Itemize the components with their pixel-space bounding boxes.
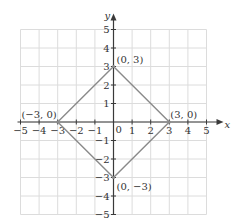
y-tick-label: 1 <box>103 98 109 109</box>
y-tick-label: 3 <box>103 61 109 72</box>
x-tick-label: −5 <box>13 125 28 136</box>
y-tick-label: 5 <box>103 24 109 35</box>
x-tick-label: 3 <box>166 125 172 136</box>
y-tick-label: 2 <box>103 80 109 91</box>
vertex-point <box>112 176 115 179</box>
x-tick-label: 5 <box>203 125 209 136</box>
point-label: (−3, 0) <box>21 109 56 120</box>
y-tick-label: −5 <box>95 209 110 220</box>
vertex-point <box>168 120 171 123</box>
origin-label: 0 <box>116 124 122 135</box>
point-label: (0, 3) <box>117 54 144 65</box>
x-tick-label: 4 <box>185 125 191 136</box>
point-label: (0, −3) <box>117 181 152 192</box>
y-tick-label: −2 <box>95 154 110 165</box>
y-tick-label: −4 <box>95 191 110 202</box>
y-tick-label: −3 <box>95 172 110 183</box>
y-tick-label: −1 <box>95 135 110 146</box>
x-axis-label: x <box>225 119 231 130</box>
x-tick-label: 1 <box>129 125 135 136</box>
x-tick-label: −4 <box>32 125 47 136</box>
vertex-point <box>56 120 59 123</box>
x-axis-arrow-icon <box>217 119 224 125</box>
x-tick-label: −2 <box>69 125 84 136</box>
coordinate-plane: xy −5−4−3−2−112345−5−4−3−2−1123450 (0, 3… <box>0 0 237 223</box>
vertex-point <box>112 65 115 68</box>
y-axis-label: y <box>104 10 111 21</box>
y-axis-arrow-icon <box>111 14 117 21</box>
point-label: (3, 0) <box>170 109 197 120</box>
y-tick-label: 4 <box>103 43 109 54</box>
x-tick-label: 2 <box>148 125 154 136</box>
